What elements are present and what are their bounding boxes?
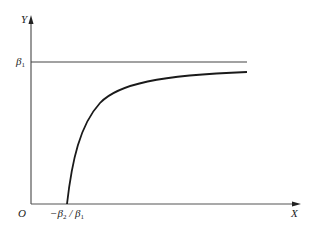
diagram-canvas	[0, 0, 316, 231]
y-axis-arrow-icon	[29, 15, 34, 24]
x-axis-label: X	[291, 208, 298, 219]
response-curve	[67, 72, 247, 204]
asymptote-label-sub: 1	[21, 61, 25, 69]
x-intercept-sep: / β	[66, 207, 80, 219]
x-axis-arrow-icon	[292, 202, 301, 207]
x-intercept-prefix: −β	[50, 207, 63, 219]
y-axis-label: Y	[21, 14, 27, 25]
x-intercept-label: −β2 / β1	[50, 208, 84, 221]
asymptote-label: β1	[16, 56, 25, 69]
origin-label: O	[18, 208, 26, 219]
x-intercept-sub2: 1	[80, 213, 84, 221]
